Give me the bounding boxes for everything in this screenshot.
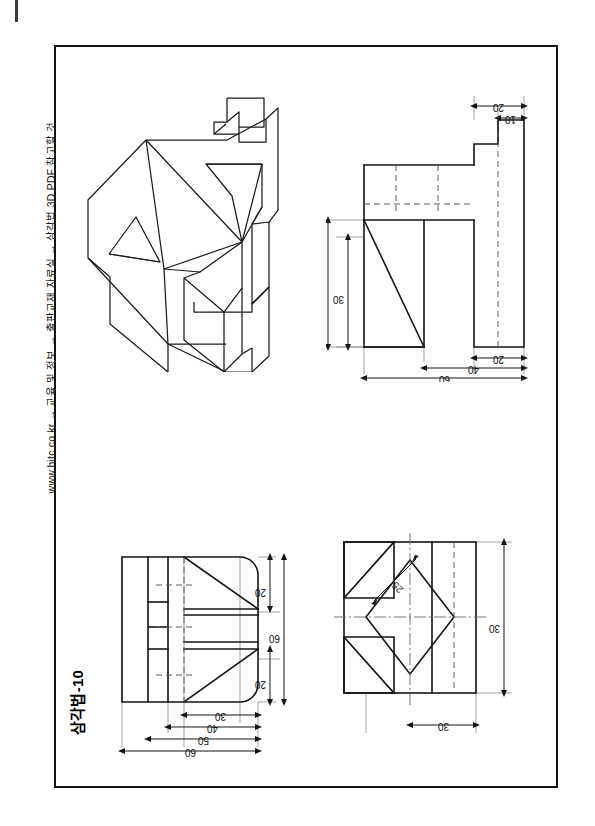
isometric-view: [64, 72, 324, 372]
dim-side-25: 25: [389, 579, 405, 595]
dim-front-20-bottom: 20: [492, 354, 504, 365]
dim-side-30-vertical: 30: [488, 623, 500, 634]
drawing-frame: 삼각법-10: [54, 45, 558, 788]
dim-top-30: 30: [214, 711, 226, 722]
dim-top-40: 40: [206, 723, 218, 734]
dim-front-10-top: 10: [504, 114, 516, 125]
dim-front-40-bottom: 40: [467, 364, 479, 375]
top-view: 20 60 20 30 40 50 60: [64, 497, 304, 762]
dim-top-60: 60: [268, 633, 280, 644]
dim-side-30-horizontal: 30: [437, 721, 449, 732]
dim-front-30: 30: [332, 294, 344, 305]
side-view: 25 30 30: [316, 497, 546, 762]
dim-top-50: 50: [197, 735, 209, 746]
dim-front-20-top: 20: [492, 102, 504, 113]
dim-top-20-lower: 20: [254, 679, 266, 690]
dim-top-20-upper: 20: [254, 587, 266, 598]
dim-top-60-bottom: 60: [184, 747, 196, 758]
page-corner-tick: [15, 0, 18, 22]
dim-front-60-bottom: 60: [438, 374, 450, 382]
front-view: 40 30 20 40 60 20 10: [326, 92, 556, 382]
